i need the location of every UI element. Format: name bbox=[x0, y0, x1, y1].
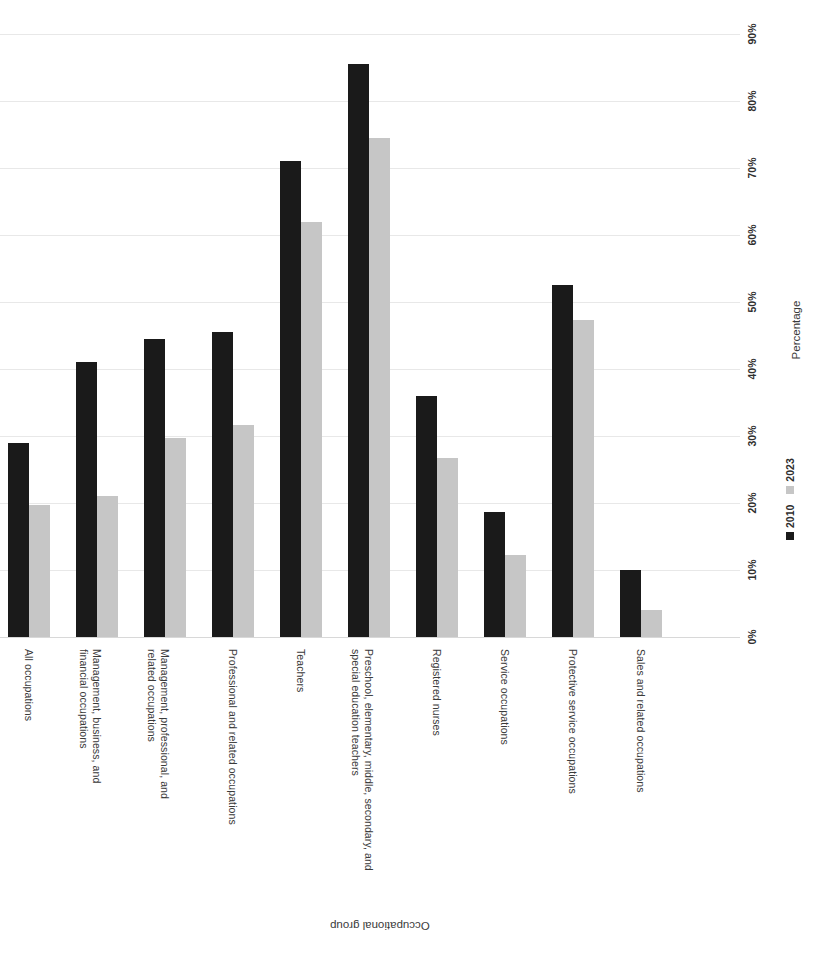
chart-canvas: All occupationsManagement, business, and… bbox=[0, 0, 818, 957]
category-label-line: Teachers bbox=[294, 649, 307, 909]
bar-2023 bbox=[573, 320, 594, 637]
category-label-line: special education teachers bbox=[349, 649, 362, 909]
value-tick-label: 70% bbox=[746, 138, 758, 198]
bar-2010 bbox=[76, 362, 97, 637]
bar-2023 bbox=[29, 505, 50, 637]
plot-area bbox=[0, 0, 740, 660]
category-label-line: Management, professional, and bbox=[158, 649, 171, 909]
value-tick-label: 50% bbox=[746, 272, 758, 332]
category-label: Sales and related occupations bbox=[634, 649, 647, 909]
bar-2010 bbox=[620, 570, 641, 637]
bar-2010 bbox=[552, 285, 573, 637]
bar-2023 bbox=[437, 458, 458, 637]
category-label-line: Service occupations bbox=[498, 649, 511, 909]
category-label-line: Professional and related occupations bbox=[226, 649, 239, 909]
bar-group bbox=[280, 0, 322, 660]
category-axis-title: Occupational group bbox=[330, 920, 430, 932]
bar-2023 bbox=[301, 222, 322, 637]
category-label: Management, professional, andrelated occ… bbox=[145, 649, 171, 909]
category-label: All occupations bbox=[22, 649, 35, 909]
legend-swatch-icon bbox=[786, 532, 794, 540]
category-label: Service occupations bbox=[498, 649, 511, 909]
value-tick-label: 60% bbox=[746, 205, 758, 265]
bar-group bbox=[8, 0, 50, 660]
category-label: Teachers bbox=[294, 649, 307, 909]
category-label: Management, business, andfinancial occup… bbox=[77, 649, 103, 909]
bar-2010 bbox=[484, 512, 505, 637]
legend-item[interactable]: 2023 bbox=[784, 458, 796, 493]
bar-group bbox=[416, 0, 458, 660]
category-label-line: Registered nurses bbox=[430, 649, 443, 909]
category-label-line: financial occupations bbox=[77, 649, 90, 909]
category-label: Registered nurses bbox=[430, 649, 443, 909]
bar-group bbox=[484, 0, 526, 660]
legend-label: 2023 bbox=[784, 458, 796, 481]
value-tick-label: 0% bbox=[746, 607, 758, 667]
legend-label: 2010 bbox=[784, 505, 796, 528]
bar-2023 bbox=[165, 438, 186, 637]
bar-2023 bbox=[369, 138, 390, 637]
category-axis-labels: All occupationsManagement, business, and… bbox=[0, 645, 740, 910]
bar-2010 bbox=[416, 396, 437, 637]
category-label: Professional and related occupations bbox=[226, 649, 239, 909]
bar-2023 bbox=[233, 425, 254, 637]
value-tick-label: 40% bbox=[746, 339, 758, 399]
value-tick-label: 10% bbox=[746, 540, 758, 600]
bar-2010 bbox=[8, 443, 29, 637]
value-tick-label: 80% bbox=[746, 71, 758, 131]
bar-2010 bbox=[348, 64, 369, 637]
bar-2023 bbox=[97, 496, 118, 637]
category-label: Preschool, elementary, middle, secondary… bbox=[349, 649, 375, 909]
value-tick-label: 90% bbox=[746, 4, 758, 64]
bar-group bbox=[620, 0, 662, 660]
category-label-line: All occupations bbox=[22, 649, 35, 909]
value-tick-label: 30% bbox=[746, 406, 758, 466]
bar-group bbox=[552, 0, 594, 660]
legend-item[interactable]: 2010 bbox=[784, 505, 796, 540]
bar-2023 bbox=[641, 610, 662, 637]
bar-2010 bbox=[212, 332, 233, 637]
category-label-line: Protective service occupations bbox=[566, 649, 579, 909]
bar-group bbox=[212, 0, 254, 660]
value-tick-label: 20% bbox=[746, 473, 758, 533]
category-label-line: Preschool, elementary, middle, secondary… bbox=[362, 649, 375, 909]
value-axis-title: Percentage bbox=[790, 301, 802, 360]
bar-group bbox=[348, 0, 390, 660]
chart-legend: 20102023 bbox=[784, 458, 796, 540]
category-label-line: Sales and related occupations bbox=[634, 649, 647, 909]
bar-group bbox=[144, 0, 186, 660]
legend-swatch-icon bbox=[786, 486, 794, 494]
category-label-line: related occupations bbox=[145, 649, 158, 909]
category-label-line: Management, business, and bbox=[90, 649, 103, 909]
bar-2023 bbox=[505, 555, 526, 637]
category-label: Protective service occupations bbox=[566, 649, 579, 909]
bar-group bbox=[76, 0, 118, 660]
value-axis-ticks: 0%10%20%30%40%50%60%70%80%90% bbox=[742, 0, 782, 660]
bar-2010 bbox=[280, 161, 301, 637]
bar-2010 bbox=[144, 339, 165, 637]
